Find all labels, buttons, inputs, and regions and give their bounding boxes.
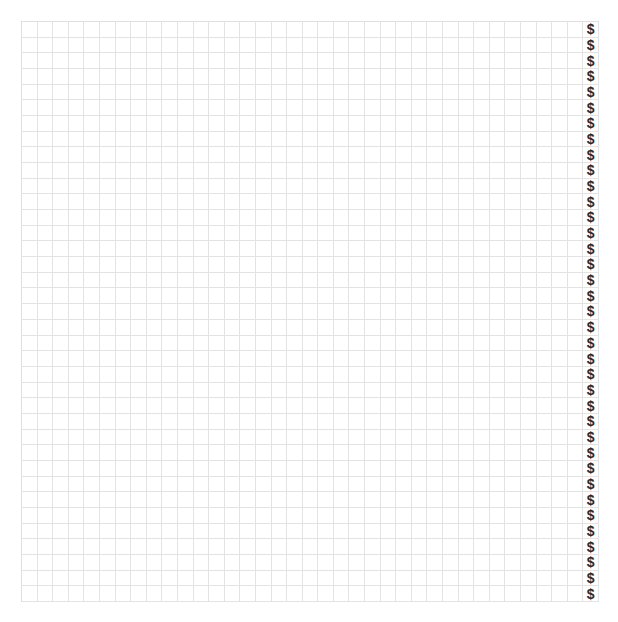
grid-cell[interactable] xyxy=(459,461,475,477)
grid-cell[interactable] xyxy=(521,116,537,132)
grid-cell[interactable] xyxy=(162,586,178,602)
grid-cell[interactable] xyxy=(287,163,303,179)
grid-cell[interactable] xyxy=(459,586,475,602)
grid-cell[interactable] xyxy=(568,194,584,210)
grid-cell[interactable] xyxy=(209,241,225,257)
grid-cell[interactable] xyxy=(459,367,475,383)
grid-cell[interactable] xyxy=(38,273,54,289)
grid-cell[interactable] xyxy=(334,69,350,85)
grid-cell[interactable] xyxy=(22,571,38,587)
grid-cell[interactable] xyxy=(303,194,319,210)
grid-cell[interactable] xyxy=(443,539,459,555)
grid-cell[interactable] xyxy=(490,445,506,461)
grid-cell[interactable] xyxy=(334,445,350,461)
grid-cell[interactable] xyxy=(100,539,116,555)
grid-cell[interactable] xyxy=(443,226,459,242)
grid-cell[interactable] xyxy=(240,555,256,571)
grid-cell[interactable] xyxy=(537,273,553,289)
grid-cell[interactable] xyxy=(69,132,85,148)
grid-cell[interactable] xyxy=(474,179,490,195)
grid-cell[interactable] xyxy=(552,69,568,85)
grid-cell[interactable] xyxy=(568,461,584,477)
grid-cell[interactable] xyxy=(490,336,506,352)
grid-cell[interactable] xyxy=(490,147,506,163)
grid-cell[interactable] xyxy=(334,22,350,38)
grid-cell[interactable] xyxy=(178,492,194,508)
grid-cell[interactable] xyxy=(209,367,225,383)
grid-cell[interactable] xyxy=(272,163,288,179)
grid-cell[interactable] xyxy=(427,179,443,195)
grid-cell[interactable] xyxy=(162,210,178,226)
grid-cell[interactable] xyxy=(147,100,163,116)
grid-cell[interactable] xyxy=(459,257,475,273)
grid-cell[interactable] xyxy=(381,430,397,446)
grid-cell[interactable] xyxy=(396,116,412,132)
grid-cell[interactable] xyxy=(69,179,85,195)
grid-cell[interactable] xyxy=(537,492,553,508)
grid-cell[interactable] xyxy=(490,508,506,524)
grid-cell[interactable] xyxy=(240,163,256,179)
grid-cell[interactable] xyxy=(427,132,443,148)
grid-cell[interactable] xyxy=(162,320,178,336)
grid-cell[interactable] xyxy=(131,492,147,508)
grid-cell[interactable] xyxy=(427,38,443,54)
grid-cell[interactable] xyxy=(272,571,288,587)
grid-cell[interactable] xyxy=(365,69,381,85)
grid-cell[interactable] xyxy=(412,336,428,352)
grid-cell[interactable] xyxy=(474,320,490,336)
grid-cell[interactable] xyxy=(365,132,381,148)
grid-cell[interactable] xyxy=(69,257,85,273)
grid-cell[interactable] xyxy=(69,100,85,116)
grid-cell[interactable] xyxy=(552,383,568,399)
grid-cell[interactable] xyxy=(69,320,85,336)
grid-cell[interactable] xyxy=(147,461,163,477)
grid-cell[interactable] xyxy=(334,492,350,508)
grid-cell[interactable] xyxy=(100,85,116,101)
grid-cell[interactable] xyxy=(178,571,194,587)
grid-cell[interactable] xyxy=(84,53,100,69)
grid-cell[interactable] xyxy=(69,430,85,446)
grid-cell[interactable] xyxy=(100,430,116,446)
grid-cell[interactable] xyxy=(100,383,116,399)
grid-cell[interactable] xyxy=(459,477,475,493)
dollar-sign-cell[interactable]: $ xyxy=(583,351,599,367)
grid-cell[interactable] xyxy=(194,22,210,38)
grid-cell[interactable] xyxy=(116,571,132,587)
grid-cell[interactable] xyxy=(22,288,38,304)
grid-cell[interactable] xyxy=(474,210,490,226)
grid-cell[interactable] xyxy=(381,179,397,195)
grid-cell[interactable] xyxy=(396,539,412,555)
grid-cell[interactable] xyxy=(537,367,553,383)
grid-cell[interactable] xyxy=(225,398,241,414)
grid-cell[interactable] xyxy=(225,539,241,555)
grid-cell[interactable] xyxy=(147,477,163,493)
grid-cell[interactable] xyxy=(490,492,506,508)
dollar-sign-cell[interactable]: $ xyxy=(583,430,599,446)
grid-cell[interactable] xyxy=(459,163,475,179)
grid-cell[interactable] xyxy=(100,257,116,273)
grid-cell[interactable] xyxy=(412,492,428,508)
grid-cell[interactable] xyxy=(162,398,178,414)
grid-cell[interactable] xyxy=(474,147,490,163)
grid-cell[interactable] xyxy=(381,226,397,242)
grid-cell[interactable] xyxy=(303,147,319,163)
grid-cell[interactable] xyxy=(194,241,210,257)
grid-cell[interactable] xyxy=(240,571,256,587)
grid-cell[interactable] xyxy=(303,445,319,461)
grid-cell[interactable] xyxy=(178,367,194,383)
grid-cell[interactable] xyxy=(69,53,85,69)
grid-cell[interactable] xyxy=(84,257,100,273)
grid-cell[interactable] xyxy=(240,492,256,508)
grid-cell[interactable] xyxy=(303,477,319,493)
grid-cell[interactable] xyxy=(38,320,54,336)
grid-cell[interactable] xyxy=(53,586,69,602)
grid-cell[interactable] xyxy=(38,241,54,257)
grid-cell[interactable] xyxy=(318,100,334,116)
grid-cell[interactable] xyxy=(365,367,381,383)
grid-cell[interactable] xyxy=(240,22,256,38)
grid-cell[interactable] xyxy=(22,539,38,555)
grid-cell[interactable] xyxy=(22,445,38,461)
grid-cell[interactable] xyxy=(147,571,163,587)
grid-cell[interactable] xyxy=(334,571,350,587)
grid-cell[interactable] xyxy=(349,336,365,352)
